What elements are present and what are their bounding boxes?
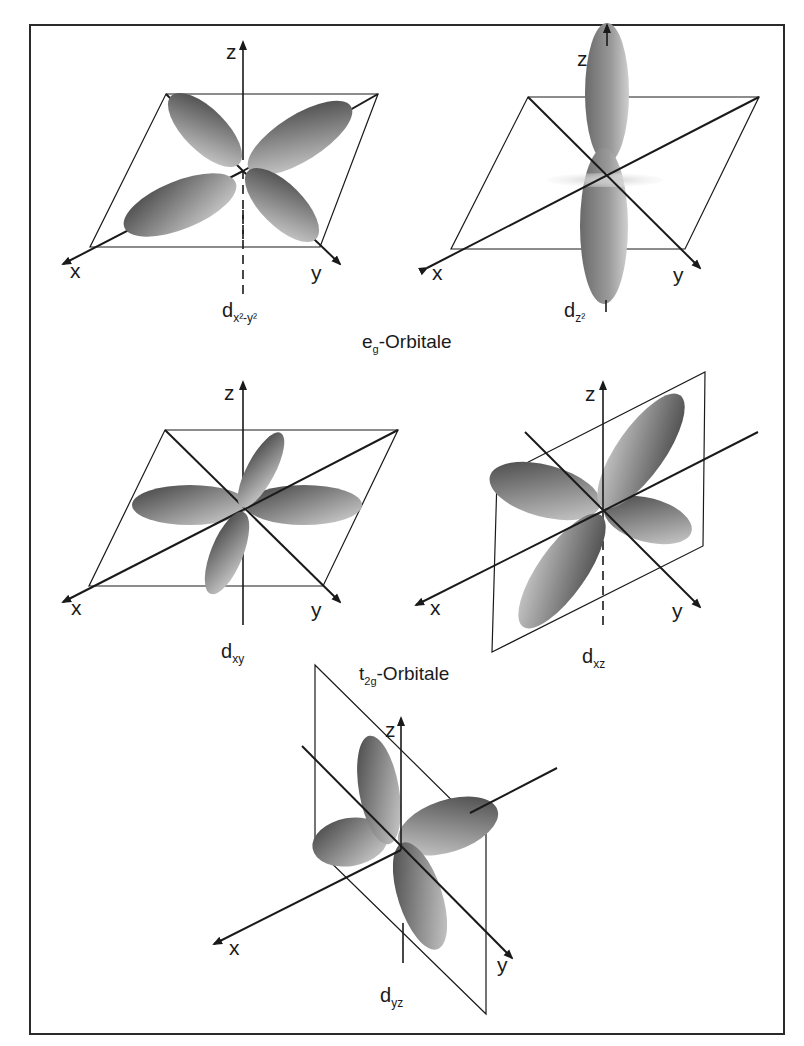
orbital-label-dxz: dxz <box>582 646 605 670</box>
group-label-t2g: t2g-Orbitale <box>359 664 449 687</box>
axis-label-z: z <box>224 382 235 403</box>
axis-label-x: x <box>229 937 240 958</box>
axis-label-x: x <box>430 597 441 618</box>
axis-label-y: y <box>497 954 508 975</box>
axis-label-y: y <box>311 262 322 283</box>
panel-dz2 <box>427 23 759 312</box>
axis-label-z: z <box>385 719 396 740</box>
axis-label-x: x <box>70 260 81 281</box>
orbital-label-dyz: dyz <box>380 985 403 1009</box>
orbital-label-dz2: dz² <box>564 300 585 324</box>
axis-label-y: y <box>672 600 683 621</box>
panel-dxy <box>63 382 398 625</box>
panel-dxz <box>416 372 758 652</box>
group-label-eg: eg-Orbitale <box>362 332 452 355</box>
orbital-label-dxy: dxy <box>221 641 244 665</box>
axis-label-y: y <box>311 599 322 620</box>
orbital-diagram <box>0 0 804 1046</box>
axis-label-y: y <box>673 264 684 285</box>
axis-label-z: z <box>226 41 237 62</box>
axis-label-z: z <box>585 383 596 404</box>
orbital-label-dx2-y2: dx²-y² <box>222 300 257 324</box>
axis-label-x: x <box>432 262 443 283</box>
axis-label-z: z <box>577 48 588 69</box>
axis-label-x: x <box>71 597 82 618</box>
panel-dx2-y2 <box>63 42 378 300</box>
